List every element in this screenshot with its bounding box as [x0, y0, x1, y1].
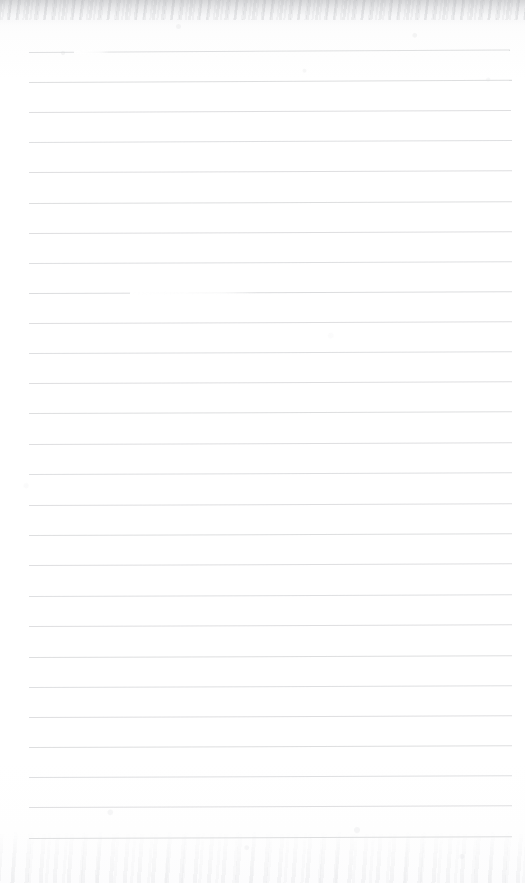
- notebook-page: [0, 0, 525, 883]
- paper-background: [0, 0, 525, 883]
